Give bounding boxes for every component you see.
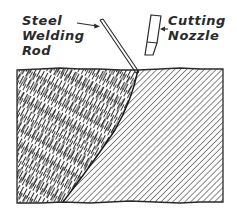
steel-welding-rod-label: Steel Welding Rod xyxy=(22,13,85,58)
cutting-nozzle-label: Cutting Nozzle xyxy=(168,13,226,43)
nozzle-label-line-1: Cutting xyxy=(168,13,226,28)
rod-label-line-3: Rod xyxy=(22,43,85,58)
rod-label-line-1: Steel xyxy=(22,13,85,28)
rod-label-line-2: Welding xyxy=(22,28,85,43)
welding-diagram: Steel Welding Rod Cutting Nozzle xyxy=(0,0,237,224)
nozzle-label-line-2: Nozzle xyxy=(168,28,226,43)
nozzle-leader-arrow xyxy=(160,27,168,32)
welding-rod xyxy=(100,19,139,73)
cutting-nozzle xyxy=(145,15,161,55)
